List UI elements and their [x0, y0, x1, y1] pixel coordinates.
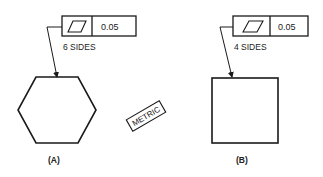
- square-shape: [212, 78, 278, 143]
- tolerance-value-a: 0.05: [101, 22, 119, 32]
- note-4-sides: 4 SIDES: [234, 42, 267, 52]
- note-6-sides: 6 SIDES: [63, 42, 96, 52]
- hexagon-shape: [18, 77, 96, 143]
- flatness-icon: [68, 21, 86, 32]
- caption-b: (B): [236, 155, 248, 165]
- metric-stamp: METRIC: [126, 101, 165, 131]
- caption-a: (A): [48, 155, 60, 165]
- tolerance-value-b: 0.05: [278, 22, 296, 32]
- figure-a: 0.05 6 SIDES (A): [18, 16, 136, 165]
- leader-line-b: [220, 27, 233, 77]
- leader-line-a: [47, 27, 62, 77]
- feature-control-frame-a: 0.05: [62, 16, 136, 36]
- figure-b: 0.05 4 SIDES (B): [212, 16, 308, 165]
- feature-control-frame-b: 0.05: [233, 16, 308, 36]
- diagram-canvas: 0.05 6 SIDES (A) METRIC 0.05 4 SIDES (B): [0, 0, 323, 177]
- flatness-icon: [243, 21, 263, 32]
